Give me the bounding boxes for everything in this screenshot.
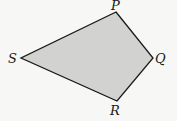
vertex-label-r: R (109, 103, 120, 118)
vertex-label-s: S (8, 51, 17, 66)
quadrilateral-pqrs (21, 12, 153, 101)
vertex-label-p: P (110, 0, 120, 13)
vertex-label-q: Q (155, 51, 166, 66)
quadrilateral-diagram: P Q R S (0, 0, 177, 121)
